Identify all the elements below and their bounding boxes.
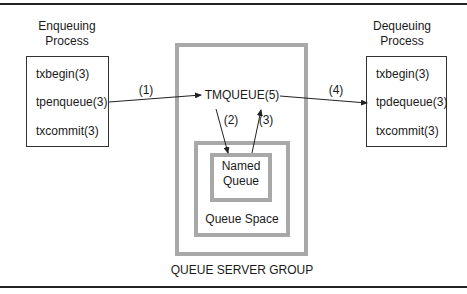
arrow-4-label: (4) [326,83,346,98]
arrow-4 [280,96,367,103]
arrow-3-label: (3) [256,113,276,128]
arrow-1-label: (1) [136,83,156,98]
arrow-2-label: (2) [221,113,241,128]
flow-arrows [0,0,467,294]
